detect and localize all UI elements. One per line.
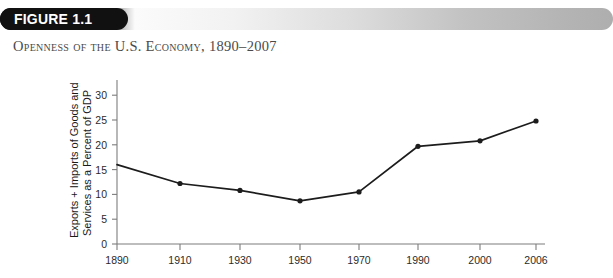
data-point-1910 bbox=[177, 181, 182, 186]
chart-axes bbox=[117, 80, 545, 244]
x-tick-label-1970: 1970 bbox=[347, 254, 371, 266]
figure-number-label: FIGURE 1.1 bbox=[0, 11, 92, 27]
y-tick-label-0: 0 bbox=[101, 238, 107, 250]
y-tick-label-10: 10 bbox=[95, 188, 107, 200]
series-line bbox=[117, 121, 536, 201]
series-markers bbox=[177, 118, 538, 203]
y-tick-label-30: 30 bbox=[95, 89, 107, 101]
x-tick-label-1890: 1890 bbox=[105, 254, 129, 266]
data-series bbox=[117, 118, 539, 203]
y-axis-title-line-2: Services as a Percent of GDP bbox=[81, 90, 93, 236]
x-tick-label-2000: 2000 bbox=[468, 254, 492, 266]
x-tick-label-1990: 1990 bbox=[406, 254, 430, 266]
x-tick-label-1930: 1930 bbox=[228, 254, 252, 266]
data-point-1970 bbox=[356, 189, 361, 194]
figure-header-band: FIGURE 1.1 bbox=[0, 8, 613, 30]
data-point-2006 bbox=[533, 118, 538, 123]
line-chart: Exports + Imports of Goods and Services … bbox=[0, 68, 613, 278]
figure-title: Openness of the U.S. Economy, 1890–2007 bbox=[13, 38, 277, 55]
data-point-1990 bbox=[415, 144, 420, 149]
x-axis-ticks: 1890 1910 1930 1950 1970 1990 2000 2006 bbox=[105, 244, 548, 266]
y-axis-title-line-1: Exports + Imports of Goods and bbox=[68, 82, 80, 238]
x-tick-label-2006: 2006 bbox=[524, 254, 548, 266]
y-tick-label-25: 25 bbox=[95, 114, 107, 126]
data-point-2000 bbox=[477, 138, 482, 143]
y-tick-label-20: 20 bbox=[95, 139, 107, 151]
y-tick-label-15: 15 bbox=[95, 164, 107, 176]
y-axis-ticks: 0 5 10 15 20 25 30 bbox=[95, 89, 117, 250]
figure-number-badge: FIGURE 1.1 bbox=[0, 8, 128, 30]
x-tick-label-1910: 1910 bbox=[168, 254, 192, 266]
y-axis-title: Exports + Imports of Goods and Services … bbox=[68, 82, 93, 238]
x-tick-label-1950: 1950 bbox=[288, 254, 312, 266]
y-tick-label-5: 5 bbox=[101, 213, 107, 225]
data-point-1950 bbox=[297, 198, 302, 203]
chart-canvas: Exports + Imports of Goods and Services … bbox=[0, 68, 613, 278]
data-point-1930 bbox=[237, 188, 242, 193]
